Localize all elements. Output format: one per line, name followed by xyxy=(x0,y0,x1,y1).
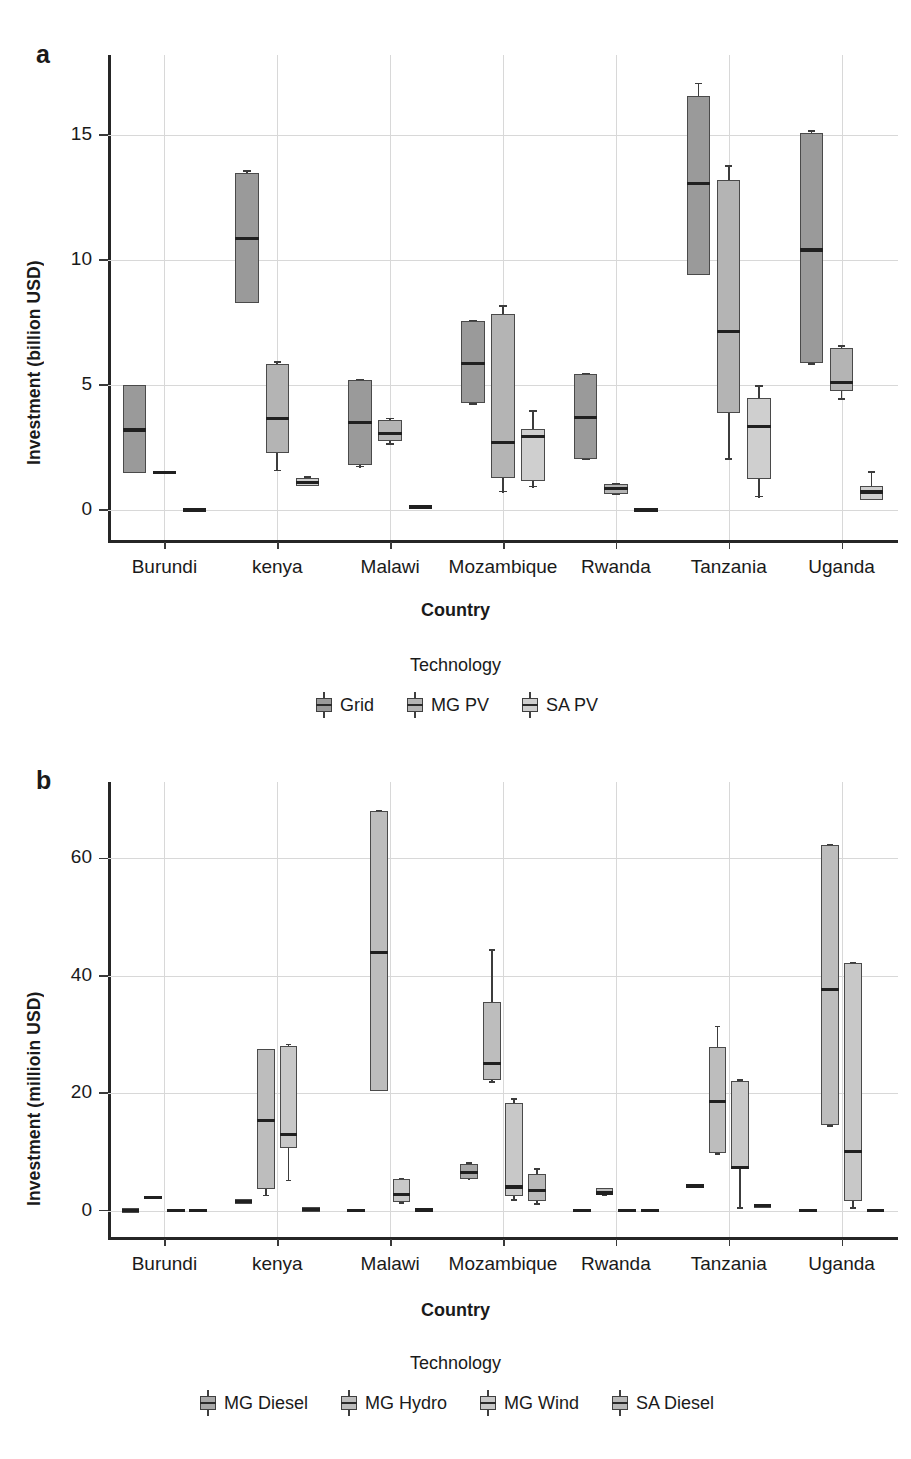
x-tick-label: Burundi xyxy=(108,1253,221,1275)
box-whisker-cap-lower xyxy=(737,1207,743,1209)
box-whisker-cap-lower xyxy=(838,398,846,400)
box-plot-median xyxy=(167,1209,185,1212)
legend-whisker-bottom-icon xyxy=(348,1409,350,1416)
x-gridline xyxy=(390,55,391,540)
box-plot-median xyxy=(596,1191,614,1194)
box-whisker-cap-upper xyxy=(755,385,763,387)
box-whisker-upper xyxy=(717,1026,719,1048)
y-tick-label: 0 xyxy=(30,1199,92,1221)
x-gridline xyxy=(729,782,730,1237)
legend-label: MG Wind xyxy=(504,1393,579,1414)
y-tick-label: 60 xyxy=(30,846,92,868)
legend-item[interactable]: MG Wind xyxy=(477,1390,579,1416)
box-whisker-cap-upper xyxy=(529,410,537,412)
x-tick-mark xyxy=(729,542,731,549)
x-tick-label: kenya xyxy=(221,1253,334,1275)
box-whisker-cap-upper xyxy=(838,345,846,347)
y-tick-label: 15 xyxy=(30,123,92,145)
x-gridline xyxy=(164,782,165,1237)
legend-item[interactable]: MG PV xyxy=(404,692,489,718)
legend-label: Grid xyxy=(340,695,374,716)
legend-boxplot-icon xyxy=(609,1390,631,1416)
x-tick-mark xyxy=(503,1239,505,1246)
box-plot-box xyxy=(491,314,514,478)
box-plot-median xyxy=(409,505,432,508)
box-plot-median xyxy=(257,1119,275,1122)
legend-item[interactable]: SA Diesel xyxy=(609,1390,714,1416)
legend-median-icon xyxy=(200,1402,216,1404)
legend-median-icon xyxy=(341,1402,357,1404)
y-tick-mark xyxy=(99,858,108,860)
y-tick-mark xyxy=(99,384,108,386)
legend-label: MG Hydro xyxy=(365,1393,447,1414)
box-plot-median xyxy=(378,432,401,435)
box-plot-median xyxy=(280,1133,298,1136)
legend-item[interactable]: MG Diesel xyxy=(197,1390,308,1416)
legend-whisker-bottom-icon xyxy=(414,711,416,718)
panel-b-plot-area: 0204060BurundikenyaMalawiMozambiqueRwand… xyxy=(108,782,898,1237)
box-plot-median xyxy=(800,248,823,251)
box-whisker-cap-lower xyxy=(274,470,282,472)
legend-item[interactable]: SA PV xyxy=(519,692,598,718)
box-plot-median xyxy=(641,1209,659,1212)
panel-a: a Investment (billion USD) 051015Burundi… xyxy=(0,0,911,736)
box-plot-median xyxy=(709,1100,727,1103)
box-plot-median xyxy=(296,481,319,484)
box-whisker-upper xyxy=(491,949,493,1001)
box-plot-median xyxy=(573,1209,591,1212)
x-tick-mark xyxy=(616,1239,618,1246)
box-plot-box xyxy=(731,1081,749,1170)
x-tick-mark xyxy=(277,1239,279,1246)
box-whisker-cap-upper xyxy=(274,361,282,363)
box-plot-median xyxy=(393,1193,411,1196)
legend-whisker-bottom-icon xyxy=(619,1409,621,1416)
box-whisker-upper xyxy=(758,385,760,398)
box-plot-box xyxy=(830,348,853,392)
legend-item[interactable]: Grid xyxy=(313,692,374,718)
box-whisker-cap-upper xyxy=(511,1098,517,1100)
x-gridline xyxy=(164,55,165,540)
box-whisker-cap-lower xyxy=(499,491,507,493)
y-tick-label: 5 xyxy=(30,373,92,395)
legend-label: MG Diesel xyxy=(224,1393,308,1414)
box-plot-box xyxy=(378,420,401,441)
legend-whisker-bottom-icon xyxy=(487,1409,489,1416)
box-plot-median xyxy=(235,1200,253,1203)
box-plot-median xyxy=(122,1209,140,1212)
legend-boxplot-icon xyxy=(404,692,426,718)
x-tick-label: Malawi xyxy=(334,556,447,578)
panel-a-plot-area: 051015BurundikenyaMalawiMozambiqueRwanda… xyxy=(108,55,898,540)
x-tick-label: kenya xyxy=(221,556,334,578)
x-gridline xyxy=(390,782,391,1237)
box-plot-box xyxy=(717,180,740,413)
box-plot-median xyxy=(505,1185,523,1188)
y-tick-label: 0 xyxy=(30,498,92,520)
y-axis-line xyxy=(108,782,111,1237)
x-tick-mark xyxy=(842,1239,844,1246)
box-plot-median xyxy=(483,1062,501,1065)
box-plot-box xyxy=(821,845,839,1125)
panel-b-legend: MG DieselMG HydroMG WindSA Diesel xyxy=(0,1390,911,1416)
box-whisker-upper xyxy=(532,410,534,429)
x-tick-label: Uganda xyxy=(785,556,898,578)
box-plot-median xyxy=(634,508,657,511)
box-plot-median xyxy=(491,441,514,444)
box-whisker-cap-upper xyxy=(808,130,816,132)
box-whisker-cap-lower xyxy=(808,363,816,365)
box-plot-median xyxy=(821,988,839,991)
box-whisker-cap-upper xyxy=(695,83,703,85)
box-plot-box xyxy=(393,1179,411,1202)
box-plot-median xyxy=(153,471,176,474)
panel-b-y-axis-label: Investment (millioin USD) xyxy=(24,846,45,1206)
legend-median-icon xyxy=(407,704,423,706)
y-tick-mark xyxy=(99,1210,108,1212)
box-plot-box xyxy=(483,1002,501,1081)
x-gridline xyxy=(277,782,278,1237)
box-plot-median xyxy=(460,1171,478,1174)
x-tick-label: Uganda xyxy=(785,1253,898,1275)
x-tick-mark xyxy=(277,542,279,549)
legend-boxplot-icon xyxy=(519,692,541,718)
box-whisker-lower xyxy=(276,453,278,472)
panel-a-legend: GridMG PVSA PV xyxy=(0,692,911,718)
legend-item[interactable]: MG Hydro xyxy=(338,1390,447,1416)
